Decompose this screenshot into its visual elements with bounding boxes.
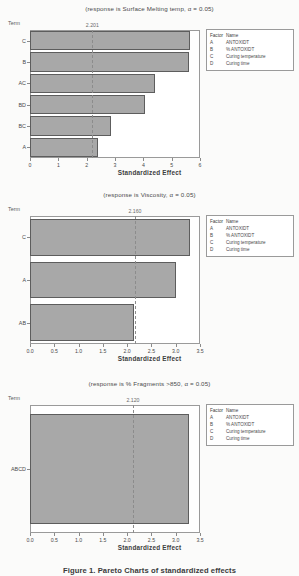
legend-row: AANTOXIDT [210, 414, 290, 421]
bar-abcd [30, 414, 189, 524]
x-tick-mark [127, 344, 128, 347]
legend-factor-code: D [210, 435, 226, 442]
legend-row: B% ANTOXIDT [210, 421, 290, 428]
reference-line [92, 30, 93, 158]
x-tick-label: 3 [114, 162, 117, 168]
x-axis-title: Standardized Effect [0, 355, 299, 362]
x-tick-mark [172, 158, 173, 161]
legend-factor-code: A [210, 39, 226, 46]
y-tick-label-ab: AB [8, 320, 26, 326]
x-tick-mark [54, 533, 55, 536]
legend-factor-code: C [210, 239, 226, 246]
factor-legend: FactorNameAANTOXIDTB% ANTOXIDTCCuring te… [206, 404, 294, 446]
x-tick-label: 1.5 [99, 348, 106, 354]
legend-row: B% ANTOXIDT [210, 46, 290, 53]
x-tick-mark [79, 344, 80, 347]
x-tick-label: 0.0 [26, 537, 33, 543]
legend-header-factor: Factor [210, 218, 226, 225]
legend-row: CCuring temperature [210, 428, 290, 435]
bar-c [30, 31, 190, 51]
reference-line [135, 216, 136, 344]
legend-header-name: Name [226, 32, 290, 39]
x-tick-mark [30, 158, 31, 161]
legend-factor-code: B [210, 232, 226, 239]
reference-line [133, 405, 134, 533]
legend-header-row: FactorName [210, 32, 290, 39]
legend-factor-name: Curing time [226, 435, 290, 442]
legend-row: AANTOXIDT [210, 225, 290, 232]
x-tick-mark [151, 533, 152, 536]
y-tick-label-c: C [8, 38, 26, 44]
legend-factor-name: Curing temperature [226, 53, 290, 60]
x-tick-label: 4 [142, 162, 145, 168]
x-tick-mark [127, 533, 128, 536]
x-tick-mark [200, 344, 201, 347]
y-tick-mark [27, 62, 30, 63]
bar-bd [30, 95, 145, 115]
y-tick-label-a: A [8, 144, 26, 150]
legend-header-factor: Factor [210, 32, 226, 39]
legend-factor-code: A [210, 225, 226, 232]
x-tick-mark [115, 158, 116, 161]
y-tick-mark [27, 83, 30, 84]
x-tick-mark [30, 344, 31, 347]
legend-header-row: FactorName [210, 218, 290, 225]
bar-a [30, 138, 98, 158]
chart-title: (response is Viscosity, α = 0.05) [0, 191, 299, 198]
x-tick-label: 2.0 [124, 348, 131, 354]
x-tick-label: 3.0 [172, 537, 179, 543]
bar-c [30, 219, 190, 256]
y-tick-mark [27, 469, 30, 470]
legend-header-factor: Factor [210, 407, 226, 414]
legend-factor-name: ANTOXIDT [226, 225, 290, 232]
bar-ab [30, 304, 134, 341]
x-tick-mark [103, 533, 104, 536]
x-tick-label: 2.5 [148, 348, 155, 354]
reference-line-value: 2.201 [86, 22, 99, 28]
legend-factor-code: A [210, 414, 226, 421]
x-tick-label: 3.5 [196, 348, 203, 354]
reference-line-value: 2.160 [128, 208, 141, 214]
legend-factor-name: % ANTOXIDT [226, 421, 290, 428]
legend-row: DCuring time [210, 246, 290, 253]
x-tick-label: 2.5 [148, 537, 155, 543]
x-tick-label: 2 [85, 162, 88, 168]
legend-factor-name: Curing time [226, 246, 290, 253]
x-axis-title: Standardized Effect [0, 169, 299, 176]
x-tick-label: 1.0 [75, 537, 82, 543]
bar-b [30, 52, 189, 72]
x-tick-mark [143, 158, 144, 161]
x-tick-mark [54, 344, 55, 347]
y-tick-mark [27, 147, 30, 148]
bar-bc [30, 116, 111, 136]
legend-factor-code: C [210, 428, 226, 435]
x-tick-label: 1.5 [99, 537, 106, 543]
y-tick-mark [27, 237, 30, 238]
bar-a [30, 262, 176, 299]
x-tick-mark [200, 533, 201, 536]
y-tick-label-abcd: ABCD [8, 466, 26, 472]
legend-row: AANTOXIDT [210, 39, 290, 46]
legend-factor-name: % ANTOXIDT [226, 46, 290, 53]
x-tick-label: 1.0 [75, 348, 82, 354]
x-tick-label: 3.0 [172, 348, 179, 354]
x-tick-label: 3.5 [196, 537, 203, 543]
legend-factor-code: B [210, 46, 226, 53]
chart-title: (response is Surface Melting temp, α = 0… [0, 5, 299, 12]
x-tick-label: 0 [29, 162, 32, 168]
x-tick-mark [103, 344, 104, 347]
y-tick-label-ac: AC [8, 80, 26, 86]
x-tick-mark [200, 158, 201, 161]
x-tick-mark [176, 344, 177, 347]
figure-page: (response is Surface Melting temp, α = 0… [0, 0, 299, 576]
pareto-chart-percent-fragments: (response is % Fragments >850, α = 0.05)… [0, 372, 299, 558]
y-tick-label-bd: BD [8, 102, 26, 108]
legend-header-name: Name [226, 407, 290, 414]
y-tick-mark [27, 323, 30, 324]
x-tick-label: 0.5 [51, 348, 58, 354]
x-tick-mark [176, 533, 177, 536]
legend-header-row: FactorName [210, 407, 290, 414]
factor-legend: FactorNameAANTOXIDTB% ANTOXIDTCCuring te… [206, 215, 294, 257]
x-tick-label: 1 [57, 162, 60, 168]
y-tick-mark [27, 41, 30, 42]
